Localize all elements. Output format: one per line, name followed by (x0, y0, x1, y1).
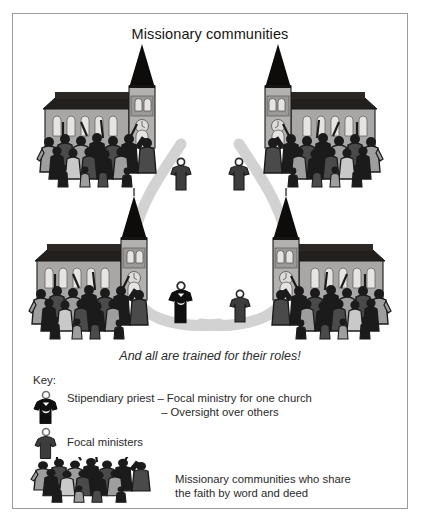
church-bottom-left (29, 188, 148, 339)
key-heading: Key: (33, 374, 56, 386)
diagram-canvas (13, 44, 407, 344)
key-item-missionary-communities-line1: Missionary communities who share (175, 473, 351, 487)
stipendiary-priest-lower (169, 282, 192, 323)
church-bottom-right (272, 188, 391, 339)
key-item-focal-ministers-label: Focal ministers (67, 436, 143, 450)
poster-frame: Missionary communities (12, 13, 408, 509)
diagram-caption: And all are trained for their roles! (13, 349, 407, 363)
key-item-stipendiary-priest-line2: – Oversight over others (67, 406, 279, 420)
church-top-left (37, 44, 156, 187)
page-title: Missionary communities (13, 26, 407, 42)
missionary-crowd-icon (29, 457, 155, 509)
key-item-stipendiary-priest-line1: Stipendiary priest – Focal ministry for … (67, 392, 312, 406)
key-item-missionary-communities-line2: the faith by word and deed (175, 487, 308, 501)
stipendiary-priest-icon (29, 390, 63, 428)
church-top-right (264, 44, 383, 187)
